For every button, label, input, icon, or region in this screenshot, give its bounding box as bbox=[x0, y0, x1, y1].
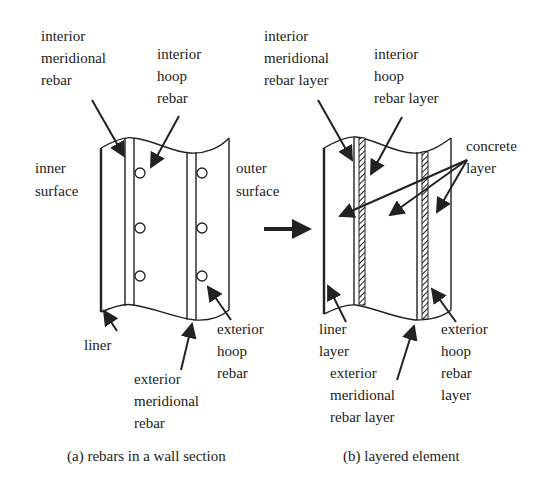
arrow-icon bbox=[151, 116, 179, 167]
arrow-icon bbox=[397, 326, 414, 380]
arrow-icon bbox=[92, 100, 124, 156]
panel-a-labels: interior meridional rebar interior hoop … bbox=[35, 28, 280, 431]
arrow-icon bbox=[104, 311, 117, 331]
arrow-icon bbox=[328, 286, 346, 322]
interior-hoop-rebar-circle bbox=[135, 271, 145, 281]
arrow-icon bbox=[371, 117, 402, 174]
exterior-hoop-rebar-circle bbox=[197, 271, 207, 281]
label-interior-meridional-rebar: interior meridional rebar bbox=[41, 28, 110, 88]
transition-arrow-icon bbox=[264, 219, 312, 239]
label-concrete-layer: concrete layer bbox=[466, 138, 521, 176]
label-exterior-meridional-rebar: exterior meridional rebar bbox=[134, 371, 203, 431]
label-outer-surface: outer surface bbox=[236, 160, 280, 199]
label-interior-hoop-rebar: interior hoop rebar bbox=[157, 46, 205, 106]
interior-hoop-rebar-layer bbox=[359, 138, 365, 305]
label-exterior-meridional-rebar-layer: exterior meridional rebar layer bbox=[330, 365, 399, 425]
label-liner-layer: liner layer bbox=[319, 321, 350, 359]
interior-hoop-rebar-circle bbox=[135, 168, 145, 178]
label-inner-surface: inner surface bbox=[35, 160, 79, 199]
label-interior-meridional-rebar-layer: interior meridional rebar layer bbox=[264, 28, 333, 88]
exterior-hoop-rebar-circle bbox=[197, 168, 207, 178]
caption-panel-a: (a) rebars in a wall section bbox=[67, 448, 226, 465]
arrow-icon bbox=[181, 324, 192, 370]
label-exterior-hoop-rebar: exterior hoop rebar bbox=[217, 321, 267, 381]
interior-hoop-rebar-circle bbox=[135, 223, 145, 233]
label-liner: liner bbox=[84, 337, 112, 353]
exterior-hoop-rebar-circle bbox=[197, 223, 207, 233]
label-interior-hoop-rebar-layer: interior hoop rebar layer bbox=[374, 46, 439, 106]
wall-section-diagram: interior meridional rebar interior hoop … bbox=[0, 0, 553, 487]
arrow-icon bbox=[437, 160, 467, 212]
label-exterior-hoop-rebar-layer: exterior hoop rebar layer bbox=[441, 321, 491, 403]
panel-a-wall-section bbox=[92, 100, 231, 370]
caption-panel-b: (b) layered element bbox=[343, 448, 460, 465]
panel-b-layered-element bbox=[318, 100, 467, 380]
arrow-icon bbox=[208, 287, 231, 320]
